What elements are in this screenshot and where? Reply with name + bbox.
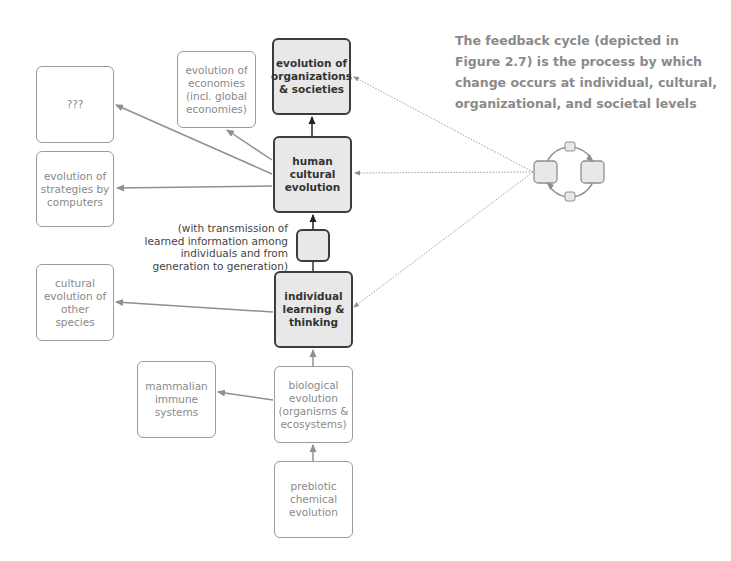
node-unknown: ??? — [36, 66, 114, 143]
node-label: ??? — [67, 98, 84, 111]
caption-line: The feedback cycle (depicted in — [455, 30, 725, 51]
arrow-human-to-strategies — [117, 186, 272, 188]
node-label: chemical — [289, 493, 338, 506]
node-mammalian-immune: mammalian immune systems — [137, 361, 216, 438]
node-label: thinking — [283, 316, 345, 329]
caption-line: Figure 2.7) is the process by which — [455, 51, 725, 72]
node-label: prebiotic — [289, 480, 338, 493]
node-strategies-computers: evolution of strategies by computers — [36, 151, 114, 227]
node-individual-learning: individual learning & thinking — [274, 271, 353, 348]
node-label: biological — [278, 379, 348, 392]
note-line: (with transmission of — [120, 222, 288, 235]
node-label: cultural — [285, 168, 341, 181]
node-biological-evolution: biological evolution (organisms & ecosys… — [274, 366, 353, 443]
node-label: economies) — [185, 103, 247, 116]
node-label: evolution of — [41, 170, 110, 183]
caption-line: organizational, and societal levels — [455, 93, 725, 114]
node-label: learning & — [283, 303, 345, 316]
node-organizations-societies: evolution of organizations & societies — [272, 38, 351, 115]
node-label: individual — [283, 290, 345, 303]
node-label: cultural — [44, 277, 106, 290]
node-label: computers — [41, 196, 110, 209]
node-label: human — [285, 155, 341, 168]
node-label: evolution — [285, 181, 341, 194]
node-label: evolution — [278, 392, 348, 405]
node-label: evolution of — [271, 57, 352, 70]
feedback-cycle-caption: The feedback cycle (depicted in Figure 2… — [455, 30, 725, 114]
node-label: evolution of — [44, 290, 106, 303]
node-label: immune — [145, 393, 207, 406]
node-economies: evolution of economies (incl. global eco… — [177, 51, 256, 128]
node-label: systems — [145, 406, 207, 419]
node-label: evolution of — [185, 64, 247, 77]
node-label: ecosystems) — [278, 418, 348, 431]
feedback-cycle-icon — [534, 142, 604, 201]
arrow-human-to-economies — [227, 130, 272, 160]
dotted-arrow-to-individual — [354, 172, 533, 307]
transmission-note: (with transmission of learned informatio… — [120, 222, 288, 272]
dotted-arrow-to-human — [355, 172, 533, 173]
node-other-species: cultural evolution of other species — [36, 264, 114, 341]
node-prebiotic-chemical: prebiotic chemical evolution — [274, 461, 353, 538]
node-label: strategies by — [41, 183, 110, 196]
note-line: generation to generation) — [120, 260, 288, 273]
node-label: evolution — [289, 506, 338, 519]
node-human-cultural-evolution: human cultural evolution — [273, 136, 352, 213]
node-label: species — [44, 316, 106, 329]
node-label: economies — [185, 77, 247, 90]
node-label: (organisms & — [278, 405, 348, 418]
node-label: mammalian — [145, 380, 207, 393]
caption-line: change occurs at individual, cultural, — [455, 72, 725, 93]
note-line: learned information among — [120, 235, 288, 248]
node-label: other — [44, 303, 106, 316]
note-line: individuals and from — [120, 247, 288, 260]
node-transmission — [296, 229, 330, 262]
node-label: organizations — [271, 70, 352, 83]
arrow-individual-to-other-species — [116, 302, 273, 312]
arrow-biological-to-immune — [218, 392, 273, 400]
node-label: (incl. global — [185, 90, 247, 103]
node-label: & societies — [271, 83, 352, 96]
